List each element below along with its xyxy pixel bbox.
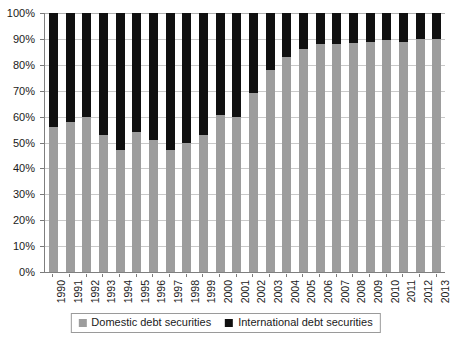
x-tick-slot: 1990: [44, 274, 61, 320]
bar-segment-domestic: [99, 135, 108, 272]
x-tick-mark: [136, 274, 137, 277]
bar-segment-international: [49, 13, 58, 127]
bar-stack[interactable]: [382, 13, 391, 272]
bar-slot: [178, 13, 195, 272]
bar-stack[interactable]: [416, 13, 425, 272]
bar-segment-domestic: [416, 39, 425, 272]
bar-segment-international: [66, 13, 75, 122]
bar-slot: [245, 13, 262, 272]
x-tick-mark: [352, 274, 353, 277]
bar-stack[interactable]: [232, 13, 241, 272]
bar-stack[interactable]: [432, 13, 441, 272]
legend-entry[interactable]: Domestic debt securities: [78, 316, 211, 329]
bar-stack[interactable]: [399, 13, 408, 272]
x-tick-slot: 2013: [427, 274, 444, 320]
bar-stack[interactable]: [166, 13, 175, 272]
bar-slot: [128, 13, 145, 272]
bar-segment-domestic: [399, 42, 408, 273]
bar-stack[interactable]: [349, 13, 358, 272]
bar-slot: [162, 13, 179, 272]
bar-stack[interactable]: [82, 13, 91, 272]
bar-segment-international: [349, 13, 358, 43]
bar-stack[interactable]: [132, 13, 141, 272]
bar-segment-international: [416, 13, 425, 39]
bar-slot: [345, 13, 362, 272]
bar-segment-international: [399, 13, 408, 41]
x-tick-mark: [152, 274, 153, 277]
bar-segment-domestic: [149, 140, 158, 272]
bar-stack[interactable]: [116, 13, 125, 272]
bar-stack[interactable]: [199, 13, 208, 272]
bar-segment-domestic: [82, 117, 91, 272]
bar-stack[interactable]: [299, 13, 308, 272]
x-tick-label: 2013: [440, 280, 451, 303]
x-tick-slot: 2012: [411, 274, 428, 320]
bar-segment-domestic: [366, 42, 375, 273]
bar-slot: [395, 13, 412, 272]
x-tick-mark: [236, 274, 237, 277]
bar-segment-domestic: [132, 132, 141, 272]
bar-segment-domestic: [349, 43, 358, 272]
y-tick-label: 100%: [7, 8, 35, 19]
bar-segment-international: [299, 13, 308, 49]
legend-label: Domestic debt securities: [91, 316, 211, 329]
legend-label: International debt securities: [238, 316, 373, 329]
x-tick-mark: [202, 274, 203, 277]
bar-stack[interactable]: [216, 13, 225, 272]
bar-slot: [262, 13, 279, 272]
bar-slot: [328, 13, 345, 272]
x-tick-slot: 2011: [394, 274, 411, 320]
y-tick-label: 30%: [13, 189, 35, 200]
x-tick-mark: [402, 274, 403, 277]
bar-segment-international: [132, 13, 141, 132]
bar-segment-international: [82, 13, 91, 117]
bar-segment-international: [249, 13, 258, 93]
bar-slot: [62, 13, 79, 272]
x-tick-mark: [119, 274, 120, 277]
bar-segment-international: [199, 13, 208, 135]
legend-entry[interactable]: International debt securities: [225, 316, 373, 329]
bar-stack[interactable]: [282, 13, 291, 272]
y-tick-label: 60%: [13, 111, 35, 122]
bar-stack[interactable]: [366, 13, 375, 272]
x-tick-mark: [186, 274, 187, 277]
y-tick-label: 20%: [13, 215, 35, 226]
bar-segment-international: [182, 13, 191, 143]
y-tick-label: 90%: [13, 33, 35, 44]
bar-segment-international: [282, 13, 291, 57]
x-tick-mark: [52, 274, 53, 277]
x-tick-mark: [169, 274, 170, 277]
x-tick-mark: [102, 274, 103, 277]
bar-segment-domestic: [432, 39, 441, 272]
bar-segment-domestic: [216, 115, 225, 272]
bar-slot: [312, 13, 329, 272]
bar-slot: [212, 13, 229, 272]
bar-stack[interactable]: [66, 13, 75, 272]
legend-swatch-icon: [78, 319, 86, 327]
bar-slot: [362, 13, 379, 272]
legend-swatch-icon: [225, 319, 233, 327]
bar-stack[interactable]: [249, 13, 258, 272]
bar-slot: [78, 13, 95, 272]
y-tick-label: 70%: [13, 85, 35, 96]
x-tick-mark: [219, 274, 220, 277]
y-tick-label: 80%: [13, 59, 35, 70]
bar-segment-domestic: [282, 57, 291, 272]
bar-stack[interactable]: [316, 13, 325, 272]
bar-stack[interactable]: [266, 13, 275, 272]
x-tick-mark: [319, 274, 320, 277]
bar-segment-international: [332, 13, 341, 44]
bar-stack[interactable]: [149, 13, 158, 272]
bar-stack[interactable]: [99, 13, 108, 272]
bar-segment-domestic: [232, 117, 241, 272]
bar-segment-domestic: [182, 143, 191, 273]
bar-stack[interactable]: [332, 13, 341, 272]
x-tick-mark: [269, 274, 270, 277]
bar-slot: [145, 13, 162, 272]
y-tick-label: 0%: [19, 267, 35, 278]
bar-slot: [278, 13, 295, 272]
bar-segment-international: [166, 13, 175, 150]
chart-legend: Domestic debt securitiesInternational de…: [70, 313, 380, 333]
bar-stack[interactable]: [49, 13, 58, 272]
bar-stack[interactable]: [182, 13, 191, 272]
